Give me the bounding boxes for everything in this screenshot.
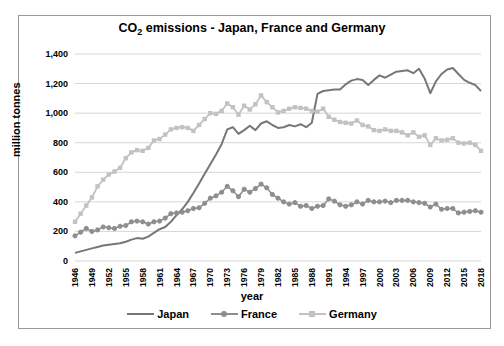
legend-sample-france xyxy=(211,308,238,320)
legend-label-japan: Japan xyxy=(157,308,189,320)
svg-text:2009: 2009 xyxy=(425,268,435,287)
legend-item-germany: Germany xyxy=(299,308,377,320)
svg-text:1988: 1988 xyxy=(307,268,317,287)
svg-text:1946: 1946 xyxy=(70,268,80,287)
svg-text:2003: 2003 xyxy=(391,268,401,287)
svg-text:1982: 1982 xyxy=(273,268,283,287)
chart-figure: CO2 emissions - Japan, France and German… xyxy=(0,0,504,346)
svg-text:1,200: 1,200 xyxy=(45,79,68,89)
svg-text:1958: 1958 xyxy=(138,268,148,287)
svg-text:1994: 1994 xyxy=(341,268,351,287)
svg-text:2012: 2012 xyxy=(442,268,452,287)
legend-item-japan: Japan xyxy=(127,308,189,320)
svg-text:400: 400 xyxy=(53,197,68,207)
svg-text:800: 800 xyxy=(53,138,68,148)
svg-text:1949: 1949 xyxy=(87,268,97,287)
svg-text:1,400: 1,400 xyxy=(45,49,68,59)
legend: Japan France Germany xyxy=(0,308,504,320)
legend-label-france: France xyxy=(241,308,277,320)
svg-text:1964: 1964 xyxy=(172,268,182,287)
svg-text:1991: 1991 xyxy=(324,268,334,287)
svg-text:200: 200 xyxy=(53,226,68,236)
svg-text:2015: 2015 xyxy=(459,268,469,287)
svg-text:1997: 1997 xyxy=(358,268,368,287)
svg-text:1961: 1961 xyxy=(155,268,165,287)
svg-text:1967: 1967 xyxy=(188,268,198,287)
svg-text:1955: 1955 xyxy=(121,268,131,287)
svg-text:2006: 2006 xyxy=(408,268,418,287)
svg-text:2000: 2000 xyxy=(375,268,385,287)
svg-text:600: 600 xyxy=(53,167,68,177)
svg-text:1970: 1970 xyxy=(205,268,215,287)
svg-text:1985: 1985 xyxy=(290,268,300,287)
svg-text:1979: 1979 xyxy=(256,268,266,287)
svg-text:1952: 1952 xyxy=(104,268,114,287)
legend-sample-japan xyxy=(127,308,154,320)
legend-item-france: France xyxy=(211,308,277,320)
svg-text:2018: 2018 xyxy=(476,268,486,287)
svg-text:1976: 1976 xyxy=(239,268,249,287)
germany-square-marker-icon xyxy=(309,311,315,317)
legend-sample-germany xyxy=(299,308,326,320)
svg-text:0: 0 xyxy=(63,256,68,266)
svg-text:1973: 1973 xyxy=(222,268,232,287)
legend-label-germany: Germany xyxy=(329,308,377,320)
france-circle-marker-icon xyxy=(221,311,227,317)
x-axis-label: year xyxy=(0,290,504,302)
japan-line-icon xyxy=(127,313,154,315)
svg-text:1,000: 1,000 xyxy=(45,108,68,118)
